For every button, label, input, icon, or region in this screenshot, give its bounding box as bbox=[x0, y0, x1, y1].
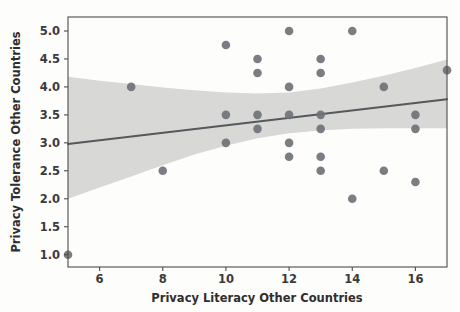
x-tick-label: 16 bbox=[407, 272, 423, 286]
x-tick-label: 10 bbox=[218, 272, 234, 286]
y-tick-label: 4.0 bbox=[40, 80, 60, 94]
y-axis-ticks: 1.01.52.02.53.03.54.04.55.0 bbox=[40, 24, 68, 262]
data-point bbox=[285, 111, 294, 120]
data-point bbox=[411, 178, 420, 187]
data-point bbox=[316, 111, 325, 120]
y-tick-label: 3.0 bbox=[40, 136, 60, 150]
data-point bbox=[253, 69, 262, 78]
data-point bbox=[411, 111, 420, 120]
data-point bbox=[316, 55, 325, 64]
data-point bbox=[411, 125, 420, 134]
x-tick-label: 12 bbox=[281, 272, 297, 286]
y-axis-title: Privacy Tolerance Other Countries bbox=[9, 31, 23, 252]
y-tick-label: 2.5 bbox=[40, 164, 60, 178]
y-tick-label: 1.0 bbox=[40, 248, 60, 262]
x-tick-label: 6 bbox=[96, 272, 104, 286]
data-point bbox=[285, 153, 294, 162]
data-point bbox=[127, 83, 136, 92]
data-point bbox=[380, 167, 389, 176]
data-point bbox=[316, 153, 325, 162]
data-point bbox=[348, 27, 357, 36]
y-tick-label: 4.5 bbox=[40, 52, 60, 66]
data-point bbox=[316, 125, 325, 134]
data-point bbox=[316, 167, 325, 176]
y-tick-label: 5.0 bbox=[40, 24, 60, 38]
data-point bbox=[222, 139, 231, 148]
data-point bbox=[222, 111, 231, 120]
y-tick-label: 1.5 bbox=[40, 220, 60, 234]
data-point bbox=[253, 111, 262, 120]
scatter-plot: 6810121416 1.01.52.02.53.03.54.04.55.0 P… bbox=[0, 0, 460, 312]
x-axis-title: Privacy Literacy Other Countries bbox=[151, 291, 362, 305]
data-point bbox=[285, 139, 294, 148]
x-tick-label: 8 bbox=[159, 272, 167, 286]
data-point bbox=[380, 83, 389, 92]
data-point bbox=[253, 55, 262, 64]
data-point bbox=[348, 194, 357, 203]
y-tick-label: 2.0 bbox=[40, 192, 60, 206]
data-point bbox=[285, 83, 294, 92]
chart-figure: 6810121416 1.01.52.02.53.03.54.04.55.0 P… bbox=[0, 0, 460, 312]
data-point bbox=[285, 27, 294, 36]
x-tick-label: 14 bbox=[344, 272, 360, 286]
data-point bbox=[316, 69, 325, 78]
y-tick-label: 3.5 bbox=[40, 108, 60, 122]
data-point bbox=[222, 41, 231, 50]
data-point bbox=[253, 125, 262, 134]
x-axis-ticks: 6810121416 bbox=[96, 267, 424, 286]
data-point bbox=[158, 167, 167, 176]
